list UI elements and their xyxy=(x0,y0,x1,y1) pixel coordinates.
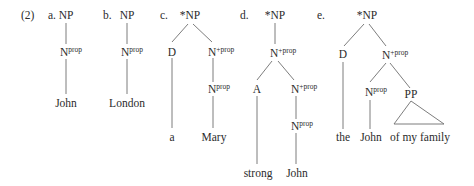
tree-node-n-plus-prop: N+prop xyxy=(291,82,318,95)
tree-node-np: NP xyxy=(59,9,74,21)
tree-a: a. NP Nprop John xyxy=(48,9,82,109)
tree-node-nprop: Nprop xyxy=(208,82,230,95)
tree-node-star-np: *NP xyxy=(357,9,377,21)
tree-leaf-word: London xyxy=(109,97,145,109)
tree-node-nprop: Nprop xyxy=(365,85,387,98)
tree-label: a. xyxy=(48,9,56,21)
tree-node-np: NP xyxy=(120,9,135,21)
tree-edge xyxy=(344,24,364,46)
tree-leaf-phrase: of my family xyxy=(390,131,450,144)
tree-node-star-np: *NP xyxy=(265,9,285,21)
tree-edge xyxy=(172,24,188,42)
tree-node-nprop: Nprop xyxy=(291,119,313,132)
tree-label: e. xyxy=(317,9,325,21)
tree-label: b. xyxy=(103,9,112,21)
tree-edge xyxy=(390,63,410,88)
tree-label: c. xyxy=(160,9,168,21)
tree-node-nprop: Nprop xyxy=(121,45,143,58)
tree-label: d. xyxy=(240,9,249,21)
tree-c: c. *NP D N+prop Nprop a Mary xyxy=(160,9,235,144)
tree-node-n-plus-prop: N+prop xyxy=(208,45,235,58)
tree-canvas: (2) a. NP Nprop John b. NP Nprop London … xyxy=(0,0,474,186)
tree-edge xyxy=(278,61,294,80)
pp-triangle xyxy=(394,101,444,124)
tree-node-a: A xyxy=(253,83,262,95)
syntax-tree-figure: (2) a. NP Nprop John b. NP Nprop London … xyxy=(0,0,474,186)
tree-d: d. *NP N+prop A N+prop Nprop strong John xyxy=(240,9,318,180)
tree-leaf-word: strong xyxy=(244,167,273,180)
tree-edge xyxy=(369,24,386,46)
tree-node-star-np: *NP xyxy=(180,9,200,21)
tree-node-n-plus-prop: N+prop xyxy=(382,48,409,61)
tree-leaf-word: John xyxy=(286,167,308,179)
tree-edge xyxy=(257,61,272,80)
tree-leaf-word: Mary xyxy=(202,131,227,144)
tree-node-pp: PP xyxy=(405,88,418,100)
tree-b: b. NP Nprop London xyxy=(103,9,145,109)
tree-edge xyxy=(370,63,386,82)
tree-node-nprop: Nprop xyxy=(60,45,82,58)
tree-leaf-word: John xyxy=(55,97,77,109)
example-number: (2) xyxy=(21,9,35,22)
tree-leaf-word: John xyxy=(360,131,382,143)
tree-node-d: D xyxy=(168,46,176,58)
tree-leaf-word: a xyxy=(169,131,174,143)
tree-leaf-word: the xyxy=(336,131,350,143)
tree-e: e. *NP D N+prop Nprop PP the John of my … xyxy=(317,9,450,144)
tree-edge xyxy=(193,24,212,42)
tree-node-n-plus-prop: N+prop xyxy=(270,46,297,59)
tree-node-d: D xyxy=(339,48,347,60)
